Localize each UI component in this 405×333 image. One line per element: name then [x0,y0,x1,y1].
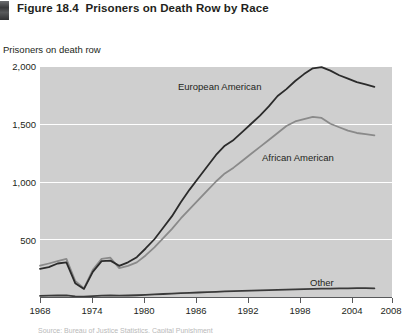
x-tick-mark [144,298,145,303]
series-label-african-american: African American [262,152,334,163]
series-line-european-american [40,67,374,289]
x-tick-label: 1986 [185,305,206,316]
x-tick-label: 1998 [289,305,310,316]
x-tick-mark [248,298,249,303]
x-tick-mark [300,298,301,303]
chart-series-lines [40,66,392,297]
x-tick-label: 1992 [237,305,258,316]
x-tick-label: 1980 [133,305,154,316]
source-note: Source: Bureau of Justice Statistics, Ca… [38,327,398,333]
x-tick-mark [92,298,93,303]
series-line-african-american [40,117,374,289]
x-tick-label: 1974 [81,305,102,316]
series-label-other: Other [310,277,334,288]
x-tick-mark [392,298,393,303]
series-label-european-american: European American [178,81,261,92]
x-tick-label: 2004 [341,305,362,316]
y-axis-tick-labels: 2,000 1,500 1,000 500 [0,0,36,333]
y-tick-label: 1,000 [0,177,36,188]
y-tick-label: 1,500 [0,119,36,130]
series-line-other [40,288,374,296]
x-tick-label: 2008 [380,305,401,316]
x-tick-mark [196,298,197,303]
y-tick-label: 500 [0,235,36,246]
y-tick-label: 2,000 [0,61,36,72]
x-tick-mark [40,298,41,303]
figure-title-text: Prisoners on Death Row by Race [85,2,268,14]
figure-header: Figure 18.4 Prisoners on Death Row by Ra… [0,0,405,22]
chart-plot-area [40,66,392,297]
page-title: Figure 18.4 Prisoners on Death Row by Ra… [17,2,269,14]
x-tick-mark [352,298,353,303]
x-tick-label: 1968 [29,305,50,316]
